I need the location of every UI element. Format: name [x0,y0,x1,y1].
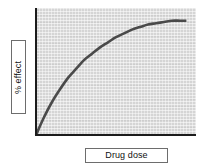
x-axis-label: Drug dose [105,151,147,160]
x-axis-label-box: Drug dose [85,148,168,163]
y-axis-label: % effect [14,60,23,93]
x-axis-line [35,134,196,136]
dose-response-chart: % effect Drug dose [0,0,219,167]
dose-response-curve [36,21,186,135]
y-axis-line [35,8,37,136]
curve-layer [0,0,219,167]
y-axis-label-box: % effect [11,40,26,114]
